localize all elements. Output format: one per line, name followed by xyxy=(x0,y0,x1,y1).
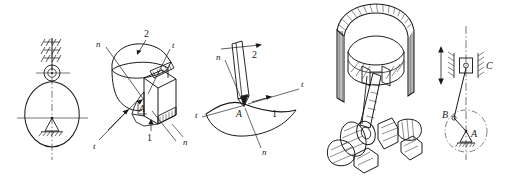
label-t-left: t xyxy=(195,110,198,120)
label-tool-2: 2 xyxy=(252,49,257,60)
leader-to-n-lower xyxy=(172,124,183,137)
crank-link-AB xyxy=(452,116,466,131)
panel-planar-contact: n 2 t t A 1 n xyxy=(186,0,326,180)
label-point-A: A xyxy=(138,104,145,114)
label-point-C: C xyxy=(486,60,493,71)
panel-kinematic-diagram: C B A xyxy=(424,0,508,180)
tangent-axis-t xyxy=(202,89,299,117)
label-n-upper: n xyxy=(96,39,101,49)
label-t-right: t xyxy=(301,79,304,89)
label-n-bottom: n xyxy=(262,147,267,157)
label-point-A: A xyxy=(470,128,478,139)
fixed-pivot-support xyxy=(39,117,63,136)
panel-engine-assembly xyxy=(318,0,438,180)
cylinder-wall-hatch-left xyxy=(338,31,342,101)
coupler-link-BC xyxy=(454,68,466,118)
connecting-rod xyxy=(360,73,381,128)
cylinder-wall-hatch-right xyxy=(409,32,413,96)
label-n-top: n xyxy=(216,52,221,62)
crankshaft xyxy=(327,118,422,173)
roller-follower xyxy=(36,65,70,81)
normal-axis-n xyxy=(106,47,176,141)
label-body-2: 2 xyxy=(144,28,149,39)
figure-strip: n t 2 1 A t n xyxy=(0,0,508,180)
surface-body-1 xyxy=(206,102,296,136)
label-t-lower: t xyxy=(93,141,96,151)
label-body-1: 1 xyxy=(147,132,152,143)
piston xyxy=(348,36,404,85)
cylinder-dome-hatch xyxy=(339,4,411,31)
label-point-A: A xyxy=(235,109,242,119)
label-surface-1: 1 xyxy=(272,108,277,119)
label-t-upper: t xyxy=(172,40,175,50)
leader-to-body-2 xyxy=(137,40,146,55)
panel-spatial-contact: n t 2 1 A t n xyxy=(72,0,200,180)
label-point-B: B xyxy=(442,109,448,120)
stroke-arrow xyxy=(438,46,444,85)
